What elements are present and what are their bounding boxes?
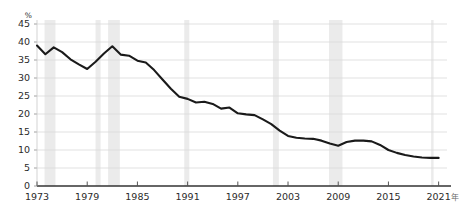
y-tick-label-45: 45 (18, 18, 30, 29)
y-tick-label-10: 10 (18, 144, 30, 155)
recession-band-3 (184, 20, 189, 186)
union-membership-rate-chart: 051015202530354045 197319791985199119972… (0, 0, 467, 222)
x-axis-tick-labels-group: 197319791985199119972003200920152021 (25, 191, 451, 202)
y-axis-unit-label: % (25, 11, 32, 20)
recession-band-2 (108, 20, 120, 186)
x-tick-label-1991: 1991 (176, 191, 200, 202)
y-tick-label-30: 30 (18, 72, 30, 83)
recession-band-5 (329, 20, 342, 186)
recession-band-6 (431, 20, 434, 186)
x-tick-label-2015: 2015 (376, 191, 400, 202)
y-tick-label-0: 0 (24, 180, 30, 191)
recession-band-0 (45, 20, 56, 186)
recession-band-4 (273, 20, 279, 186)
y-tick-label-35: 35 (18, 54, 30, 65)
recession-bands-group (45, 20, 434, 186)
x-tick-label-2021: 2021 (427, 191, 451, 202)
y-tick-label-40: 40 (18, 36, 30, 47)
y-tick-label-25: 25 (18, 90, 30, 101)
x-tick-label-1973: 1973 (25, 191, 49, 202)
y-tick-label-5: 5 (24, 162, 30, 173)
y-tick-label-20: 20 (18, 108, 30, 119)
y-tick-label-15: 15 (18, 126, 30, 137)
y-axis-tick-labels-group: 051015202530354045 (18, 18, 30, 191)
x-tick-label-1985: 1985 (125, 191, 149, 202)
x-tick-label-2009: 2009 (326, 191, 350, 202)
x-tick-label-2003: 2003 (276, 191, 300, 202)
recession-band-1 (96, 20, 101, 186)
x-axis-unit-label: 年 (451, 192, 459, 202)
chart-canvas: 051015202530354045 197319791985199119972… (0, 0, 467, 222)
x-tick-label-1979: 1979 (75, 191, 99, 202)
x-tick-label-1997: 1997 (226, 191, 250, 202)
